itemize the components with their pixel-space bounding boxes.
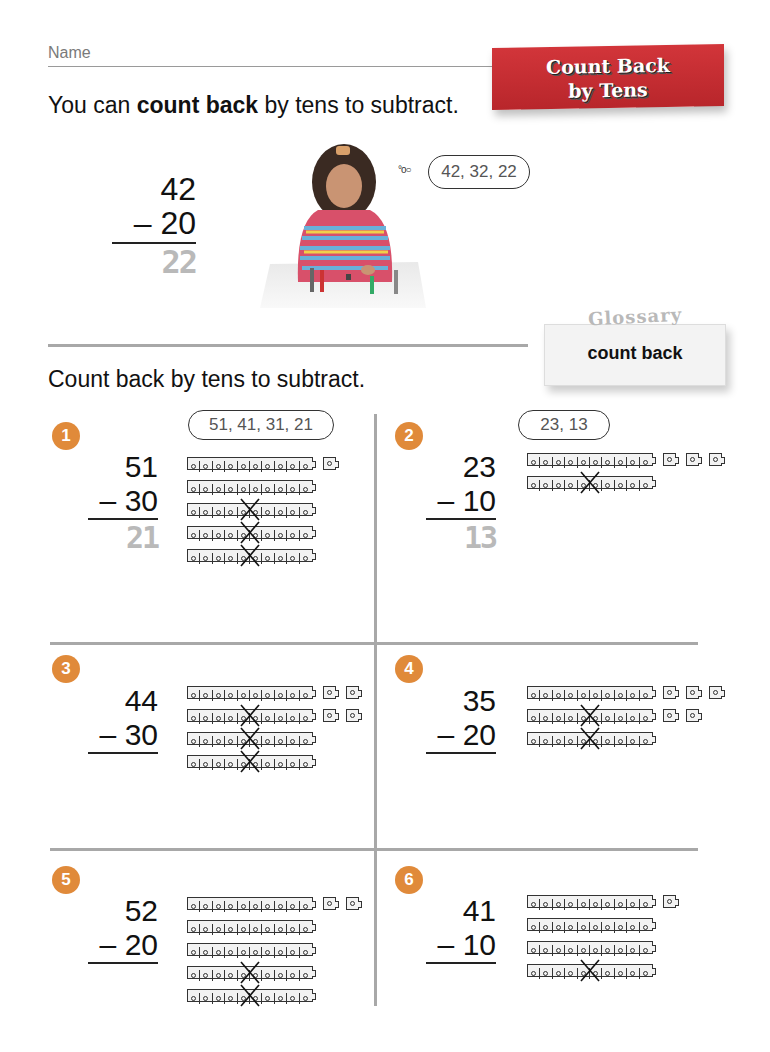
one-cube-icon [663,686,676,699]
minuend: 51 [88,450,158,484]
section-divider [48,344,528,347]
answer-field[interactable] [88,754,158,790]
one-cube-icon [323,686,336,699]
grid-divider-horizontal-2 [50,848,698,851]
thought-cloud: 23, 13 [518,410,610,440]
cross-out-icon [579,704,601,727]
problem-equation: 44– 30 [88,684,158,790]
problem-equation: 52– 20 [88,894,158,1000]
ten-rod-icon [187,457,313,470]
answer-field[interactable]: 13 [426,520,496,556]
one-cube-icon [346,709,359,722]
intro-text: You can count back by tens to subtract. [48,92,459,119]
cross-out-icon [239,704,261,727]
cube-row [527,895,676,908]
example-problem: 42 – 20 22 [112,172,196,280]
subtrahend: – 10 [426,484,496,518]
ten-rod-icon [187,686,313,699]
subtrahend: – 30 [88,718,158,752]
problem-number-badge: 1 [52,422,80,450]
ten-rod-icon [187,920,313,933]
ten-rod-icon [527,453,653,466]
subtrahend: – 30 [88,484,158,518]
lesson-title: Count Back by Tens [492,52,724,104]
cube-row [187,686,359,699]
ten-rod-icon [527,686,653,699]
cross-out-icon [579,471,601,494]
problem-equation: 51– 3021 [88,450,158,556]
cube-row [187,989,359,1002]
base-ten-cubes [527,686,722,755]
one-cube-icon [686,453,699,466]
cube-row [187,920,359,933]
one-cube-icon [323,897,336,910]
glossary-box[interactable]: count back [544,324,726,386]
cube-row [187,732,359,745]
subtrahend: – 20 [88,928,158,962]
cube-row [527,964,676,977]
ten-rod-icon [527,895,653,908]
example-answer: 22 [112,244,196,280]
problem-number-badge: 2 [395,422,423,450]
minuend: 41 [426,894,496,928]
answer-field[interactable]: 21 [88,520,158,556]
cube-row [187,457,336,470]
problem-equation: 23– 1013 [426,450,496,556]
base-ten-cubes [187,897,359,1012]
base-ten-cubes [187,686,359,778]
grid-divider-horizontal-1 [50,642,698,645]
one-cube-icon [686,709,699,722]
name-label: Name [48,44,91,62]
cube-row [187,966,359,979]
one-cube-icon [663,709,676,722]
cube-row [187,480,336,493]
cross-out-icon [239,544,261,567]
intro-keyword: count back [137,92,258,118]
subtrahend: – 20 [426,718,496,752]
lesson-title-banner: Count Back by Tens [492,44,724,110]
grid-divider-vertical [374,414,377,1006]
base-ten-cubes [527,453,722,499]
one-cube-icon [346,686,359,699]
example-minuend: 42 [112,172,196,206]
problem-number-badge: 5 [52,866,80,894]
cube-row [527,686,722,699]
one-cube-icon [663,895,676,908]
cube-row [527,941,676,954]
cube-row [527,709,722,722]
cross-out-icon [239,521,261,544]
glossary-term: count back [545,343,725,364]
cube-row [527,732,722,745]
subtrahend: – 10 [426,928,496,962]
example-subtrahend: – 20 [112,206,196,240]
one-cube-icon [323,709,336,722]
minuend: 35 [426,684,496,718]
ten-rod-icon [527,918,653,931]
one-cube-icon [686,686,699,699]
problem-number-badge: 6 [395,866,423,894]
cube-row [187,755,359,768]
answer-field[interactable] [88,964,158,1000]
problem-equation: 41– 10 [426,894,496,1000]
cube-row [187,549,336,562]
cross-out-icon [239,750,261,773]
ten-rod-icon [187,897,313,910]
cube-row [187,709,359,722]
minuend: 23 [426,450,496,484]
cube-row [187,897,359,910]
name-input-line[interactable] [48,66,496,67]
cross-out-icon [579,959,601,982]
cube-row [187,526,336,539]
cross-out-icon [239,984,261,1007]
instructions: Count back by tens to subtract. [48,366,365,393]
ten-rod-icon [187,943,313,956]
cube-row [527,476,722,489]
base-ten-cubes [187,457,336,572]
cube-row [527,453,722,466]
answer-field[interactable] [426,754,496,790]
cross-out-icon [239,727,261,750]
answer-field[interactable] [426,964,496,1000]
ten-rod-icon [527,941,653,954]
one-cube-icon [709,453,722,466]
base-ten-cubes [527,895,676,987]
